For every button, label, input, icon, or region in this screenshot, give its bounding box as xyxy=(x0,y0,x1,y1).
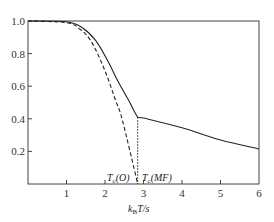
tc-mf-annotation: Tc(MF) xyxy=(142,172,172,185)
y-tick-label: 0.4 xyxy=(11,113,25,125)
plot-frame xyxy=(28,21,259,184)
x-tick-label: 6 xyxy=(256,187,262,199)
x-tick-label: 3 xyxy=(141,187,147,199)
y-tick-label: 0.6 xyxy=(11,80,25,92)
x-axis-label: kBT/s xyxy=(128,203,149,216)
x-tick-label: 4 xyxy=(179,187,185,199)
series-group xyxy=(28,21,259,184)
y-tick-label: 1.0 xyxy=(11,15,25,27)
y-axis-ticks: 0.20.40.60.81.0 xyxy=(11,15,32,157)
x-tick-label: 2 xyxy=(102,187,108,199)
y-tick-label: 0.8 xyxy=(11,48,25,60)
chart-canvas: 0.20.40.60.81.0 123456 Tc(O) Tc(MF) kBT/… xyxy=(0,0,274,222)
dashed-line xyxy=(28,21,138,184)
tc-o-annotation: Tc(O) xyxy=(107,172,130,185)
x-tick-label: 5 xyxy=(218,187,224,199)
x-tick-label: 1 xyxy=(64,187,70,199)
solid-line xyxy=(28,21,259,149)
y-tick-label: 0.2 xyxy=(11,145,25,157)
